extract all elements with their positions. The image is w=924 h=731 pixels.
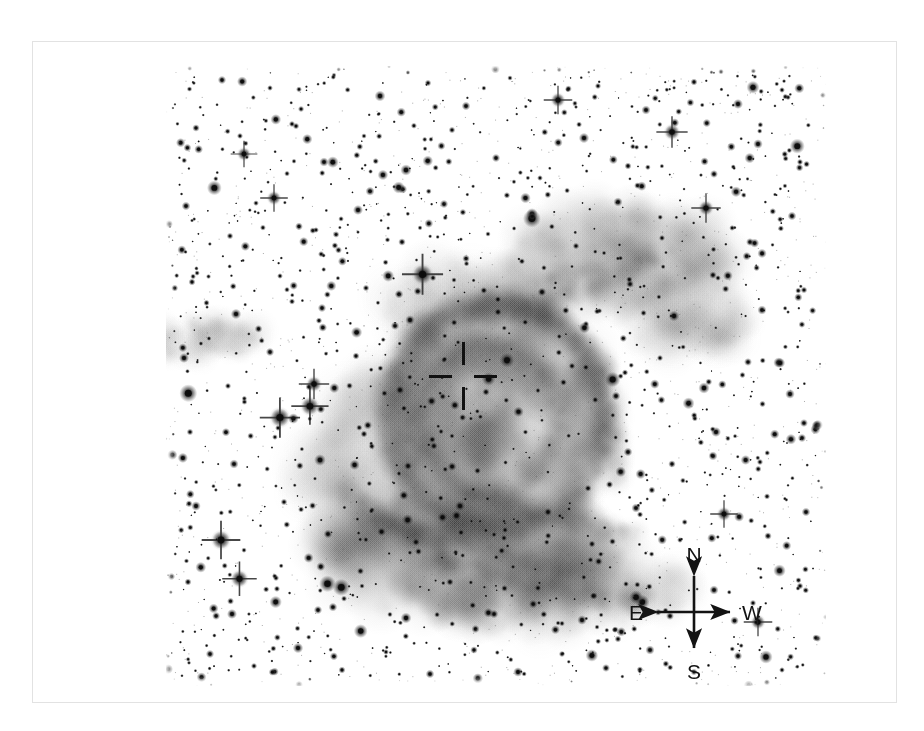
compass-arrows-icon xyxy=(634,552,754,672)
orientation-compass: N S E W xyxy=(634,552,754,672)
compass-label-north: N xyxy=(686,544,701,565)
compass-label-west: W xyxy=(742,602,762,623)
compass-label-east: E xyxy=(629,602,643,623)
compass-label-south: S xyxy=(687,661,701,682)
astronomical-figure: N S E W xyxy=(0,0,924,731)
plate-border: N S E W xyxy=(32,41,897,703)
